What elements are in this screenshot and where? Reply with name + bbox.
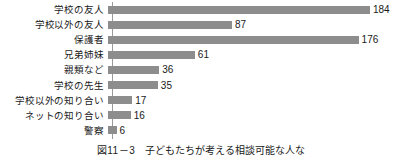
- bar-area: 61: [108, 47, 402, 62]
- bar-row: 兄弟姉妹61: [0, 47, 402, 62]
- bar-value-label: 87: [232, 19, 246, 30]
- bar: [108, 81, 158, 89]
- bar-rows: 学校の友人184学校以外の友人87保護者176兄弟姉妹61親類など36学校の先生…: [0, 2, 402, 138]
- bar: [108, 21, 232, 29]
- bar: [108, 66, 159, 74]
- bar-row: 学校以外の友人87: [0, 17, 402, 32]
- bar-category-label: 保護者: [0, 34, 108, 45]
- bar-area: 87: [108, 17, 402, 32]
- figure-container: 学校の友人184学校以外の友人87保護者176兄弟姉妹61親類など36学校の先生…: [0, 0, 402, 158]
- bar-category-label: 兄弟姉妹: [0, 49, 108, 60]
- bar-area: 16: [108, 108, 402, 123]
- bar: [108, 126, 117, 134]
- bar-value-label: 61: [195, 49, 209, 60]
- bar: [108, 111, 131, 119]
- bar-value-label: 17: [132, 95, 146, 106]
- bar-area: 176: [108, 32, 402, 47]
- bar-area: 6: [108, 123, 402, 138]
- bar-area: 184: [108, 2, 402, 17]
- figure-caption-number: 図11－3: [97, 145, 135, 156]
- bar-category-label: 学校の先生: [0, 80, 108, 91]
- bar-area: 35: [108, 77, 402, 92]
- figure-caption: 図11－3子どもたちが考える相談可能な人な: [0, 144, 402, 157]
- bar-row: 学校の友人184: [0, 2, 402, 17]
- bar-category-label: 警察: [0, 125, 108, 136]
- bar-category-label: 学校以外の友人: [0, 19, 108, 30]
- bar: [108, 51, 195, 59]
- bar-row: 学校の先生35: [0, 77, 402, 92]
- bar-chart: 学校の友人184学校以外の友人87保護者176兄弟姉妹61親類など36学校の先生…: [0, 0, 402, 141]
- bar-row: 保護者176: [0, 32, 402, 47]
- bar: [108, 96, 132, 104]
- bar-value-label: 184: [370, 4, 390, 15]
- figure-caption-text: 子どもたちが考える相談可能な人な: [135, 145, 305, 156]
- bar-category-label: 学校以外の知り合い: [0, 95, 108, 106]
- bar-row: 学校以外の知り合い17: [0, 93, 402, 108]
- bar-value-label: 35: [158, 80, 172, 91]
- bar: [108, 6, 370, 14]
- bar-value-label: 16: [131, 110, 145, 121]
- bar-row: 親類など36: [0, 62, 402, 77]
- bar-value-label: 36: [159, 64, 173, 75]
- bar-category-label: 学校の友人: [0, 4, 108, 15]
- bar-category-label: ネットの知り合い: [0, 110, 108, 121]
- bar-row: ネットの知り合い16: [0, 108, 402, 123]
- bar-category-label: 親類など: [0, 64, 108, 75]
- bar-area: 17: [108, 93, 402, 108]
- bar-value-label: 176: [359, 34, 379, 45]
- bar-area: 36: [108, 62, 402, 77]
- bar: [108, 36, 359, 44]
- bar-value-label: 6: [117, 125, 126, 136]
- bar-row: 警察6: [0, 123, 402, 138]
